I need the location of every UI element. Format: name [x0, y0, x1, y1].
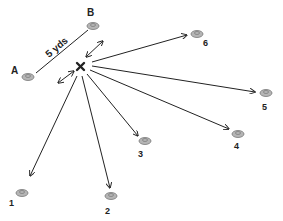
double-arrow-x-a	[58, 71, 74, 83]
center-x-icon	[77, 63, 84, 70]
cone-4	[232, 131, 244, 138]
arrow-to-cone-6	[92, 35, 187, 62]
label-1: 1	[9, 198, 14, 208]
cone-6	[191, 31, 203, 38]
drill-diagram: 5 yds A	[0, 0, 283, 221]
cone-1	[16, 190, 28, 197]
label-4: 4	[234, 141, 239, 151]
cone-a	[22, 74, 34, 81]
cone-2	[105, 193, 117, 200]
cone-b	[87, 23, 99, 30]
double-arrow-x-b	[86, 41, 103, 57]
label-2: 2	[105, 206, 110, 216]
label-3: 3	[138, 149, 143, 159]
label-b: B	[87, 7, 94, 18]
cone-3	[139, 138, 151, 145]
label-6: 6	[203, 38, 208, 48]
label-5: 5	[262, 102, 267, 112]
arrow-to-cone-1	[30, 76, 77, 176]
cone-5	[260, 90, 272, 97]
arrow-to-cone-4	[90, 70, 229, 129]
label-a: A	[11, 65, 18, 76]
arrow-to-cone-5	[92, 66, 255, 92]
arrow-to-cone-2	[82, 76, 110, 188]
